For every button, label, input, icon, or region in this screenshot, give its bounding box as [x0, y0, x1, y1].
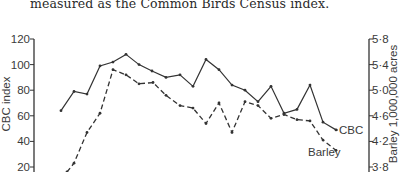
barley-point — [179, 104, 182, 107]
cbc-point — [231, 84, 234, 87]
barley-point — [244, 100, 247, 103]
cbc-point — [86, 93, 89, 96]
left-tick-label: 60 — [17, 110, 30, 122]
barley-series-label: Barley — [308, 146, 341, 158]
barley-line — [67, 70, 336, 172]
cbc-point — [192, 85, 195, 88]
cbc-point — [205, 58, 208, 61]
barley-point — [125, 73, 128, 76]
left-tick-label: 20 — [17, 161, 30, 172]
barley-point — [99, 112, 102, 115]
cbc-point — [151, 70, 154, 73]
barley-point — [257, 104, 260, 107]
left-tick-label: 40 — [17, 135, 30, 147]
left-tick-label: 80 — [17, 84, 30, 96]
barley-point — [322, 139, 325, 142]
barley-point — [231, 131, 234, 134]
cbc-point — [244, 89, 247, 92]
left-tick-label: 100 — [11, 59, 30, 71]
cbc-point — [218, 68, 221, 71]
barley-point — [205, 122, 208, 125]
right-tick-label: 5·8 — [372, 33, 389, 45]
cbc-point — [270, 85, 273, 88]
cbc-point — [99, 64, 102, 67]
cbc-point — [257, 100, 260, 103]
barley-point — [218, 102, 221, 105]
right-axis-title: Barley 1,000,000 acres — [387, 45, 399, 164]
line-chart: 12010080604020 5·85·45·04·64·23·8 CBC in… — [0, 0, 403, 172]
cbc-point — [296, 108, 299, 111]
barley-point — [138, 82, 141, 85]
cbc-point — [322, 121, 325, 124]
barley-point — [152, 81, 155, 84]
cbc-point — [73, 90, 76, 93]
cbc-point — [112, 61, 115, 64]
cbc-series-label: CBC — [339, 124, 363, 136]
cbc-point — [138, 63, 141, 66]
barley-point — [270, 117, 273, 120]
left-tick-label: 120 — [11, 33, 30, 45]
barley-point — [86, 131, 89, 134]
barley-point — [283, 113, 286, 116]
left-axis-title: CBC index — [0, 76, 12, 131]
cbc-point — [309, 84, 312, 87]
barley-point — [192, 107, 195, 110]
left-y-axis: 12010080604020 — [11, 33, 34, 172]
barley-point — [309, 120, 312, 123]
barley-point — [73, 162, 76, 165]
barley-point — [296, 118, 299, 121]
cbc-point — [179, 73, 182, 76]
cbc-point — [165, 76, 168, 79]
series-layer — [60, 53, 338, 172]
barley-point — [165, 94, 168, 97]
barley-point — [112, 68, 115, 71]
cbc-point — [60, 109, 63, 112]
cbc-point — [125, 53, 128, 56]
